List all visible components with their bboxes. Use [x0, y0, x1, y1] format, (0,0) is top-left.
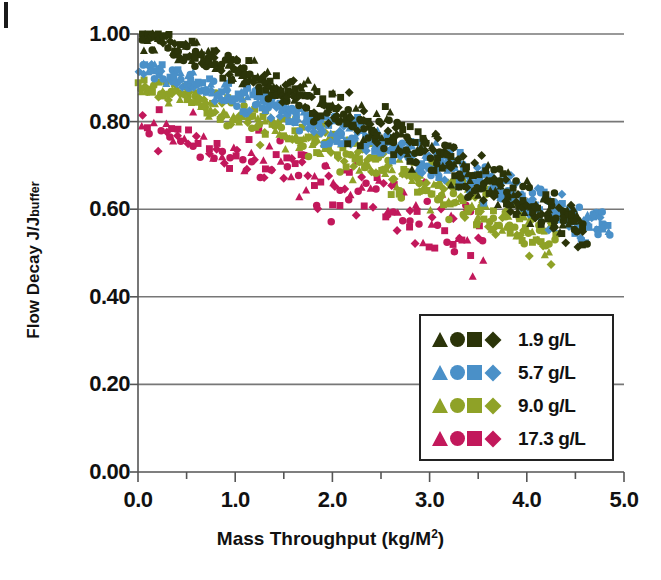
y-tick-label: 0.20: [30, 373, 130, 395]
x-tick-label: 0.0: [108, 487, 168, 513]
x-tick-label: 4.0: [497, 487, 557, 513]
diamond-marker-icon: [485, 397, 502, 414]
circle-marker-icon: [450, 332, 465, 347]
triangle-marker-icon: [432, 365, 448, 380]
legend-item[interactable]: 17.3 g/L: [421, 422, 612, 455]
legend-item[interactable]: 9.0 g/L: [421, 389, 612, 422]
diamond-marker-icon: [485, 331, 502, 348]
triangle-marker-icon: [432, 431, 448, 446]
legend-marker-group: [432, 332, 514, 347]
x-axis-title-base: Mass Throughput (kg/M: [217, 528, 431, 549]
y-tick-label: 0.80: [30, 111, 130, 133]
y-axis-title-subscript: buffer: [28, 181, 42, 216]
diamond-marker-icon: [485, 364, 502, 381]
triangle-marker-icon: [432, 398, 448, 413]
legend-marker-group: [432, 365, 514, 380]
x-axis-title: Mass Throughput (kg/M2): [0, 527, 661, 550]
y-tick-label: 0.40: [30, 286, 130, 308]
triangle-marker-icon: [432, 332, 448, 347]
square-marker-icon: [467, 332, 482, 347]
square-marker-icon: [467, 431, 482, 446]
legend-label: 17.3 g/L: [518, 428, 586, 450]
circle-marker-icon: [450, 431, 465, 446]
x-tick-label: 3.0: [400, 487, 460, 513]
legend-label: 9.0 g/L: [518, 395, 575, 417]
y-tick-label: 0.60: [30, 198, 130, 220]
chart-figure: 0.000.200.400.600.801.00 0.01.02.03.04.0…: [0, 0, 661, 580]
x-tick-label: 1.0: [205, 487, 265, 513]
circle-marker-icon: [450, 398, 465, 413]
y-axis-title-main: Flow Decay J/J: [24, 217, 43, 339]
square-marker-icon: [467, 365, 482, 380]
data-points: [135, 30, 614, 280]
legend-label: 1.9 g/L: [518, 329, 575, 351]
diamond-marker-icon: [485, 430, 502, 447]
legend-item[interactable]: 1.9 g/L: [421, 323, 612, 356]
y-axis-title: Flow Decay J/Jbuffer: [24, 130, 44, 390]
legend-marker-group: [432, 431, 514, 446]
circle-marker-icon: [450, 365, 465, 380]
y-tick-label: 0.00: [30, 461, 130, 483]
legend-item[interactable]: 5.7 g/L: [421, 356, 612, 389]
y-tick-label: 1.00: [30, 23, 130, 45]
x-axis-title-tail: ): [438, 528, 444, 549]
legend-label: 5.7 g/L: [518, 362, 575, 384]
x-tick-label: 5.0: [594, 487, 654, 513]
x-axis-title-superscript: 2: [431, 527, 438, 541]
legend: 1.9 g/L5.7 g/L9.0 g/L17.3 g/L: [419, 314, 614, 461]
square-marker-icon: [467, 398, 482, 413]
legend-marker-group: [432, 398, 514, 413]
x-tick-label: 2.0: [302, 487, 362, 513]
